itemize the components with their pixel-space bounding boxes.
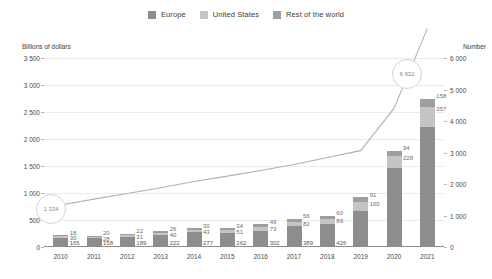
bar-label-europe: 189 [136,240,146,246]
bar-label-united-states: 30 [70,235,77,241]
bar-label-rest-of-world: 30 [203,223,210,229]
bar-label-united-states: 73 [270,226,277,232]
bar-segment-europe[interactable] [287,226,302,247]
bar-group[interactable] [353,197,368,247]
bar-segment-united-states[interactable] [420,107,435,126]
right-tick-label: 1 000 [450,212,466,219]
legend-label: United States [213,10,259,19]
x-axis-label: 2017 [277,253,310,260]
right-axis-title: Number [463,43,486,50]
bar-label-rest-of-world: 18 [70,230,77,236]
bar-segment-europe[interactable] [320,224,335,247]
x-axis-label: 2012 [111,253,144,260]
x-axis-labels: 2010201120122013201420152016201720182019… [44,252,444,266]
bar-label-europe: 426 [336,240,346,246]
bar-label-united-states: 82 [303,221,310,227]
bar-label-rest-of-world: 91 [370,192,377,198]
x-axis-label: 2018 [311,253,344,260]
bar-segment-rest-of-world[interactable] [420,99,435,108]
bar-label-rest-of-world: 22 [136,228,143,234]
legend-item-europe[interactable]: Europe [148,10,186,19]
legend-swatch-icon [273,11,281,19]
bar-label-rest-of-world: 56 [303,213,310,219]
right-tick-mark [444,121,447,122]
bar-label-rest-of-world: 158 [436,93,446,99]
left-axis-title: Billions of dollars [22,43,71,50]
legend-swatch-icon [148,11,156,19]
bar-label-united-states: 89 [336,218,343,224]
right-tick-label: 0 [450,244,454,251]
bar-group[interactable] [253,224,268,247]
bar-label-europe: 302 [270,240,280,246]
bar-label-united-states: 228 [403,155,413,161]
right-tick-label: 2 000 [450,181,466,188]
x-axis-label: 2014 [177,253,210,260]
bar-group[interactable] [153,231,168,247]
left-tick-mark [41,247,44,248]
bar-segment-united-states[interactable] [353,202,368,211]
right-tick-mark [444,247,447,248]
x-axis-label: 2010 [44,253,77,260]
bar-label-united-states: 357 [436,106,446,112]
bar-label-europe: 277 [203,240,213,246]
right-tick-label: 3 000 [450,149,466,156]
bar-label-rest-of-world: 20 [103,230,110,236]
bar-label-rest-of-world: 49 [270,219,277,225]
legend-swatch-icon [200,11,208,19]
callout-start: 1 334 [36,194,66,224]
bar-group[interactable] [220,228,235,247]
bar-segment-europe[interactable] [420,127,435,247]
bar-label-europe: 222 [170,240,180,246]
bar-label-europe: 389 [303,240,313,246]
bar-segment-europe[interactable] [187,232,202,247]
x-axis-label: 2015 [211,253,244,260]
left-tick-label: 0 [36,244,40,251]
bar-label-united-states: 31 [136,234,143,240]
left-tick-label: 2 000 [24,136,40,143]
bar-group[interactable] [320,216,335,247]
bar-label-rest-of-world: 94 [403,145,410,151]
right-tick-label: 5 000 [450,86,466,93]
bar-segment-europe[interactable] [353,211,368,247]
bar-label-europe: 2 231 [436,184,451,190]
bar-group[interactable] [387,151,402,247]
bar-label-europe: 673 [370,226,380,232]
bar-label-united-states: 43 [203,229,210,235]
bar-group[interactable] [187,228,202,247]
bar-label-united-states: 28 [103,236,110,242]
bar-label-rest-of-world: 26 [170,226,177,232]
x-axis-label: 2016 [244,253,277,260]
bar-label-rest-of-world: 34 [236,223,243,229]
left-tick-label: 3 500 [24,55,40,62]
bar-group[interactable] [287,219,302,247]
right-tick-mark [444,90,447,91]
bar-segment-united-states[interactable] [387,156,402,168]
bar-segment-europe[interactable] [387,168,402,247]
bar-label-united-states: 40 [170,232,177,238]
bar-segment-europe[interactable] [253,231,268,247]
legend-label: Rest of the world [286,10,344,19]
legend-label: Europe [161,10,186,19]
x-axis-label: 2013 [144,253,177,260]
right-tick-mark [444,58,447,59]
bar-label-united-states: 51 [236,229,243,235]
x-axis-label: 2021 [411,253,444,260]
x-axis-label: 2011 [77,253,110,260]
legend-item-united-states[interactable]: United States [200,10,259,19]
bar-label-united-states: 160 [370,201,380,207]
bar-label-europe: 1 460 [403,205,418,211]
legend-item-rest-of-the-world[interactable]: Rest of the world [273,10,344,19]
left-tick-label: 3 000 [24,82,40,89]
right-tick-mark [444,153,447,154]
plot-area: 05001 0001 5002 0002 5003 0003 500 01 00… [44,58,444,247]
zero-axis-line [44,246,444,247]
chart-legend: EuropeUnited StatesRest of the world [0,10,492,19]
bar-label-rest-of-world: 60 [336,210,343,216]
right-tick-mark [444,216,447,217]
x-axis-label: 2020 [377,253,410,260]
x-axis-label: 2019 [344,253,377,260]
bar-segment-europe[interactable] [220,233,235,247]
bar-label-europe: 262 [236,240,246,246]
bar-group[interactable] [420,99,435,247]
right-tick-label: 6 000 [450,55,466,62]
